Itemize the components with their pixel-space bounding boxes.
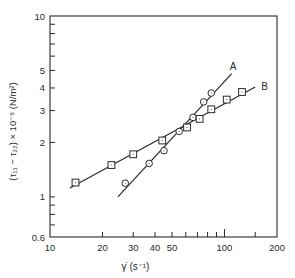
marker-center-dot bbox=[203, 101, 204, 102]
y-tick-label: 10 bbox=[34, 11, 45, 22]
x-tick-label: 50 bbox=[167, 242, 178, 253]
marker-center-dot bbox=[226, 99, 227, 100]
marker-center-dot bbox=[199, 118, 200, 119]
marker-center-dot bbox=[192, 117, 193, 118]
marker-center-dot bbox=[162, 140, 163, 141]
marker-center-dot bbox=[211, 93, 212, 94]
marker-center-dot bbox=[163, 150, 164, 151]
x-tick-label: 20 bbox=[97, 242, 108, 253]
x-tick-label: 200 bbox=[269, 242, 285, 253]
marker-center-dot bbox=[111, 165, 112, 166]
marker-center-dot bbox=[187, 127, 188, 128]
series-label-a: A bbox=[230, 61, 237, 72]
axis-ticks bbox=[50, 24, 255, 237]
y-tick-label: 0.6 bbox=[32, 232, 45, 243]
data-markers bbox=[72, 89, 245, 187]
y-tick-label: 4 bbox=[40, 82, 45, 93]
y-tick-label: 3 bbox=[40, 105, 45, 116]
x-axis-label: γ̇ (s⁻¹) bbox=[122, 261, 150, 272]
marker-center-dot bbox=[75, 182, 76, 183]
plot-border bbox=[50, 16, 277, 237]
marker-center-dot bbox=[125, 183, 126, 184]
x-tick-label: 30 bbox=[128, 242, 139, 253]
marker-center-dot bbox=[149, 163, 150, 164]
fit-lines bbox=[70, 74, 255, 197]
marker-center-dot bbox=[241, 92, 242, 93]
y-axis-label: (τ₁₁ − τ₂₂) × 10⁻⁵ (N/m²) bbox=[7, 82, 18, 180]
y-tick-label: 1 bbox=[40, 191, 45, 202]
y-tick-label: 2 bbox=[40, 137, 45, 148]
x-tick-label: 10 bbox=[45, 242, 56, 253]
x-tick-label: 40 bbox=[150, 242, 161, 253]
axis-labels: 10203040501002000.61234510γ̇ (s⁻¹)(τ₁₁ −… bbox=[7, 11, 285, 273]
plot-frame bbox=[50, 16, 277, 237]
series-label-b: B bbox=[261, 81, 268, 92]
x-tick-label: 100 bbox=[217, 242, 233, 253]
log-log-chart: 10203040501002000.61234510γ̇ (s⁻¹)(τ₁₁ −… bbox=[0, 0, 295, 278]
chart-canvas: 10203040501002000.61234510γ̇ (s⁻¹)(τ₁₁ −… bbox=[0, 0, 295, 278]
marker-center-dot bbox=[133, 154, 134, 155]
marker-center-dot bbox=[179, 131, 180, 132]
marker-center-dot bbox=[211, 109, 212, 110]
y-tick-label: 5 bbox=[40, 65, 45, 76]
